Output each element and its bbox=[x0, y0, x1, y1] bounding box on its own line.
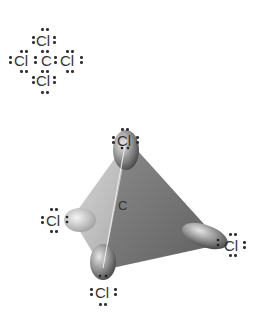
model-c-center: C bbox=[118, 198, 127, 213]
tetrahedron-model bbox=[0, 0, 263, 327]
model-cl-right: Cl bbox=[224, 238, 238, 253]
bottom-lobe bbox=[90, 244, 116, 280]
model-cl-bottom: Cl bbox=[95, 285, 109, 300]
model-cl-left: Cl bbox=[46, 213, 60, 228]
model-cl-top: Cl bbox=[117, 133, 131, 148]
left-lobe bbox=[64, 208, 96, 232]
